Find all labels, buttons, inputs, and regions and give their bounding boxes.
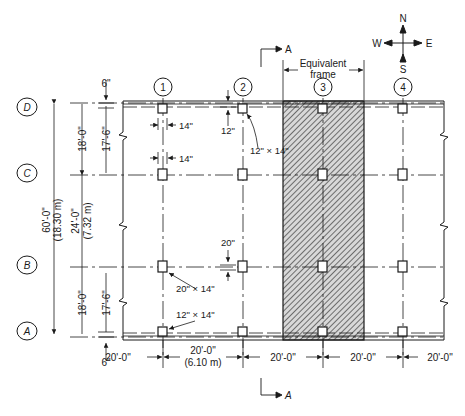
dim-span-dc: 18'-0" bbox=[77, 126, 88, 152]
dim-column-size-edge-a: 12" × 14" bbox=[176, 309, 215, 320]
section-label-bottom: A bbox=[284, 390, 292, 401]
dim-top-offset: 6" bbox=[101, 78, 111, 89]
dim-bay-4: 20'-0" bbox=[350, 352, 376, 363]
compass-south: S bbox=[400, 64, 407, 75]
section-label-top: A bbox=[285, 44, 292, 55]
column-label-3: 3 bbox=[320, 82, 326, 93]
row-bubbles bbox=[17, 98, 37, 340]
equivalent-frame-label-line2: frame bbox=[310, 69, 336, 80]
dim-span-ba: 18'-0" bbox=[77, 290, 88, 316]
dim-col-width-2: 14" bbox=[179, 153, 193, 164]
row-label-a: A bbox=[23, 326, 31, 337]
dim-column-size-b: 20" × 14" bbox=[176, 283, 215, 294]
section-marker-top bbox=[261, 46, 282, 67]
dim-span-cb-metric: (7.32 m) bbox=[82, 202, 93, 239]
dim-span-ba-clear: 17'-6" bbox=[101, 290, 112, 316]
dim-slab-edge-12: 12" bbox=[221, 125, 235, 136]
column-label-1: 1 bbox=[160, 82, 166, 93]
dim-span-total-metric: (18.30 m) bbox=[52, 199, 63, 242]
dim-bay-2: 20'-0" bbox=[190, 345, 216, 356]
dim-span-cb: 24'-0" bbox=[70, 208, 81, 234]
dim-span-dc-clear: 17'-6" bbox=[101, 126, 112, 152]
column-label-2: 2 bbox=[240, 82, 246, 93]
dim-bay-3: 20'-0" bbox=[270, 352, 296, 363]
dim-slab-edge-20: 20" bbox=[221, 237, 235, 248]
row-label-b: B bbox=[24, 260, 31, 271]
compass-east: E bbox=[426, 38, 433, 49]
row-label-c: C bbox=[23, 168, 31, 179]
dim-col-width-1: 14" bbox=[179, 120, 193, 131]
dim-span-total: 60'-0" bbox=[41, 207, 52, 233]
dim-bay-5: 20'-0" bbox=[427, 352, 453, 363]
floor-plan-diagram: 1 2 3 4 D C B A 60'-0" (18.30 m) 18'-0" … bbox=[0, 0, 465, 416]
compass-north: N bbox=[399, 13, 406, 24]
dim-bay-1: 20'-0" bbox=[105, 352, 131, 363]
column-label-4: 4 bbox=[400, 82, 406, 93]
compass-icon bbox=[384, 25, 422, 62]
equivalent-frame-strip bbox=[283, 101, 364, 340]
section-marker-bottom bbox=[261, 378, 282, 398]
dim-column-size-interior: 12" × 14" bbox=[250, 145, 289, 156]
dim-bay-2-metric: (6.10 m) bbox=[184, 357, 221, 368]
row-label-d: D bbox=[23, 102, 30, 113]
compass-west: W bbox=[372, 38, 382, 49]
equivalent-frame-label-line1: Equivalent bbox=[300, 58, 347, 69]
